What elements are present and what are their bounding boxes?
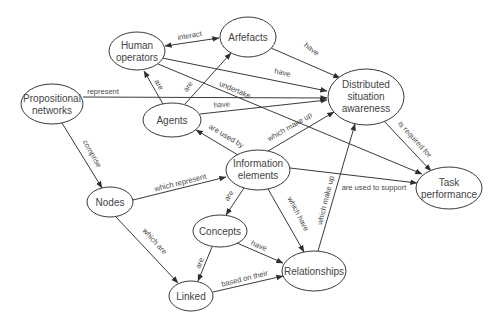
node-label: Nodes bbox=[96, 197, 125, 208]
edge-label: based on their bbox=[220, 268, 269, 288]
edge-propositional-represent-dsa: represent bbox=[83, 87, 327, 98]
node-propositional-networks: Propositional networks bbox=[21, 84, 83, 124]
node-task-performance: Task performance bbox=[416, 167, 482, 209]
edge-info-makeup-dsa: which make up bbox=[265, 110, 334, 151]
edge-concepts-have-relationships: have bbox=[237, 238, 283, 263]
edge-label: are bbox=[193, 256, 205, 269]
node-label: situation bbox=[347, 91, 384, 102]
node-nodes: Nodes bbox=[87, 187, 133, 217]
edge-info-usedby-agents: are used by bbox=[196, 122, 246, 155]
node-agents: Agents bbox=[143, 103, 201, 137]
edge-concepts-are-linked: are bbox=[193, 247, 212, 281]
node-label: Linked bbox=[176, 291, 205, 302]
edge-label: have bbox=[213, 99, 230, 109]
edge-label: represent bbox=[87, 87, 120, 96]
node-label: Distributed bbox=[342, 79, 390, 90]
edge-label: are used by bbox=[207, 122, 245, 150]
node-label: Human bbox=[121, 40, 153, 51]
edge-label: are used to support bbox=[342, 183, 408, 192]
edge-propositional-comprise-nodes: comprise bbox=[62, 123, 104, 188]
node-label: Concepts bbox=[199, 226, 241, 237]
arrow-line bbox=[83, 97, 327, 98]
edge-dsa-required-task: is required for bbox=[384, 119, 434, 171]
node-label: operators bbox=[116, 52, 158, 63]
node-label: networks bbox=[32, 105, 72, 116]
edge-label: which represent bbox=[153, 172, 208, 194]
edge-agents-are-arfefacts: are bbox=[181, 53, 231, 104]
edge-nodes-represent-info: which represent bbox=[133, 172, 226, 200]
node-label: Agents bbox=[156, 115, 187, 126]
node-label: Information bbox=[233, 158, 283, 169]
node-relationships: Relationships bbox=[282, 251, 346, 291]
node-concepts: Concepts bbox=[193, 215, 247, 247]
edge-label: have bbox=[302, 40, 320, 57]
node-linked: Linked bbox=[169, 281, 213, 311]
node-label: Propositional bbox=[23, 93, 81, 104]
edge-label: which are bbox=[140, 226, 169, 257]
arrow-line bbox=[290, 168, 417, 183]
edge-label: comprise bbox=[81, 138, 104, 169]
edge-label: interact bbox=[177, 29, 204, 42]
edge-label: have bbox=[250, 238, 268, 253]
node-label: elements bbox=[238, 170, 279, 181]
edge-label: are bbox=[222, 189, 235, 203]
edge-label: which have bbox=[285, 194, 311, 232]
edge-label: are bbox=[181, 80, 195, 94]
node-label: performance bbox=[421, 189, 478, 200]
node-label: Task bbox=[439, 177, 461, 188]
edge-linked-based-relationships: based on their bbox=[213, 268, 283, 292]
node-human-operators: Human operators bbox=[109, 32, 165, 70]
edge-label: have bbox=[274, 66, 292, 78]
edge-interact: interact bbox=[165, 29, 219, 46]
node-label: awareness bbox=[342, 103, 390, 114]
node-distributed-situation-awareness: Distributed situation awareness bbox=[328, 69, 404, 125]
edge-info-support-task: are used to support bbox=[290, 168, 417, 192]
node-information-elements: Information elements bbox=[226, 150, 290, 190]
edge-nodes-are-linked: which are bbox=[116, 217, 178, 283]
node-label: Arfefacts bbox=[228, 32, 267, 43]
edge-info-have-relationships: which have bbox=[268, 189, 311, 252]
concept-map-diagram: interact have have undertake represent a… bbox=[0, 0, 500, 326]
node-label: Relationships bbox=[284, 266, 344, 277]
edge-info-are-concepts: are bbox=[222, 188, 244, 215]
node-arfefacts: Arfefacts bbox=[220, 17, 276, 57]
edge-agents-are-human: are bbox=[144, 71, 166, 104]
